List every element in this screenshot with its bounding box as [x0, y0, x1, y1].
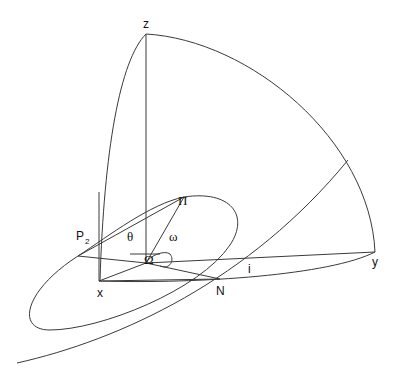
- orbital-elements-diagram: z x y N i P 2 Π θ ω Ω: [0, 0, 397, 383]
- label-P: P: [76, 229, 84, 243]
- orbit-ellipse: [29, 196, 237, 330]
- label-omega: ω: [169, 229, 178, 244]
- label-z: z: [143, 17, 149, 31]
- label-Omega: Ω: [144, 252, 154, 267]
- label-theta: θ: [127, 229, 133, 244]
- P2-to-x: [78, 197, 184, 256]
- line-of-nodes: [146, 263, 220, 279]
- label-pericenter: Π: [178, 193, 187, 208]
- label-i: i: [248, 262, 251, 276]
- label-N: N: [216, 284, 225, 298]
- meridian-arc-xz: [100, 34, 146, 281]
- meridian-arc-yz: [146, 34, 375, 252]
- x-axis: [99, 263, 146, 281]
- y-axis: [146, 252, 375, 263]
- label-P-subscript: 2: [85, 237, 90, 246]
- label-x: x: [97, 286, 103, 300]
- line-to-P2: [78, 256, 146, 263]
- label-y: y: [372, 255, 378, 269]
- equator-arc-xy: [99, 252, 375, 282]
